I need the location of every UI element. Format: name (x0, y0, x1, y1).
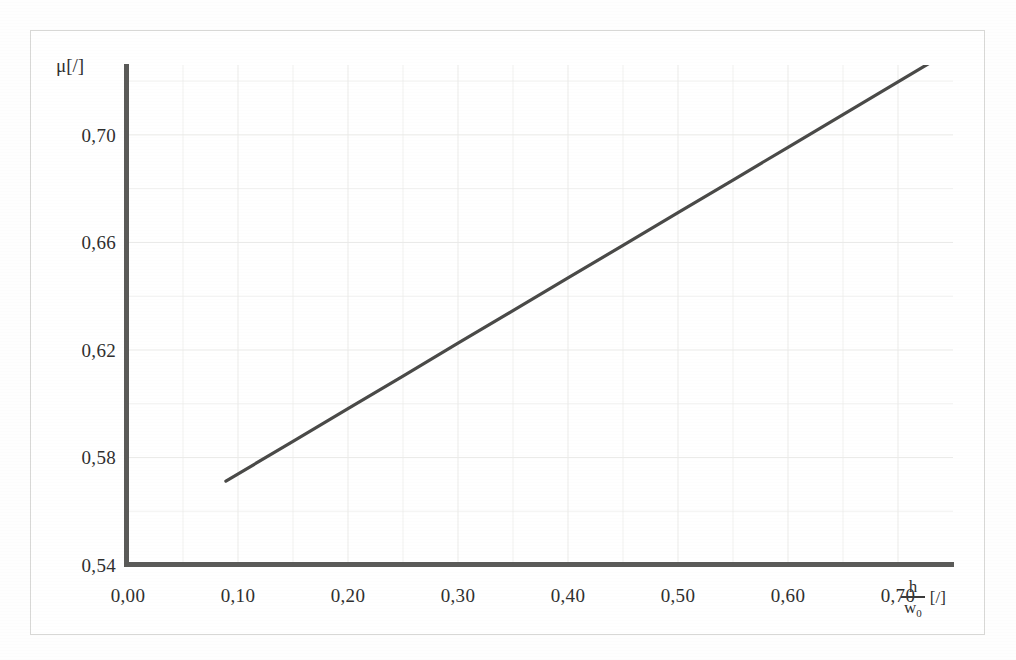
x-axis-tick-labels: 0,000,100,200,300,400,500,600,70 (0, 586, 1016, 612)
x-tick-label: 0,40 (528, 586, 608, 605)
y-tick-label: 0,58 (46, 448, 116, 467)
plot-area (128, 65, 953, 565)
y-axis (124, 64, 129, 567)
y-tick-label: 0,54 (46, 556, 116, 575)
x-axis-title-fraction: h w0 (901, 578, 925, 619)
x-tick-label: 0,00 (88, 586, 168, 605)
x-axis-title-denominator-base: w (904, 598, 916, 617)
x-axis-title-denominator-subscript: 0 (916, 607, 922, 619)
y-tick-label: 0,62 (46, 341, 116, 360)
x-tick-label: 0,30 (418, 586, 498, 605)
x-axis-title: h w0 [/] (901, 578, 946, 619)
y-tick-label: 0,66 (46, 233, 116, 252)
series-mu (226, 65, 936, 481)
x-tick-label: 0,20 (308, 586, 388, 605)
y-tick-label: 0,70 (46, 126, 116, 145)
data-line-series (128, 65, 953, 565)
y-axis-tick-labels: 0,700,660,620,580,54 (42, 0, 116, 660)
x-tick-label: 0,50 (638, 586, 718, 605)
x-axis-unit: [/] (930, 588, 946, 608)
x-axis (124, 562, 954, 567)
x-axis-title-denominator: w0 (901, 598, 925, 619)
x-tick-label: 0,10 (198, 586, 278, 605)
x-tick-label: 0,60 (748, 586, 828, 605)
x-axis-title-numerator: h (906, 578, 921, 596)
figure-root: μ[/] 0,700,660,620,580,54 0,000,100,200,… (0, 0, 1016, 660)
